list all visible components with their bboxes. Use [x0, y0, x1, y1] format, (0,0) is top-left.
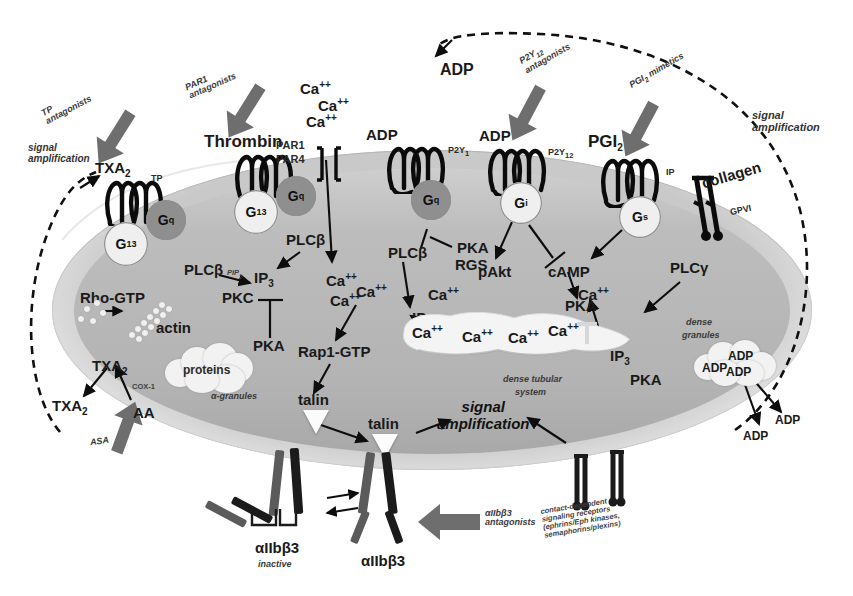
serca-pump-icon: [573, 318, 603, 352]
calcium-channel: [316, 146, 346, 190]
label-adp-top: ADP: [440, 62, 474, 79]
label-plcb-par: PLCβ: [286, 232, 325, 248]
gs-sub: s: [643, 212, 648, 222]
arrow-plcb-p2y1-to-ip3: [403, 262, 410, 307]
label-plcb-tp: PLCβ: [184, 262, 223, 278]
arrow-rap1-talin: [314, 364, 330, 393]
label-signal-amplification-right: signal amplification: [752, 110, 820, 133]
arrow-ca-rap1: [336, 305, 356, 340]
label-pakt: pAkt: [478, 264, 511, 280]
label-adp-released-1: ADP: [743, 430, 768, 443]
label-adp-p2y1: ADP: [366, 127, 398, 143]
label-txa2-released: TXA2: [52, 398, 88, 418]
label-ca-p2y1: Ca++: [428, 286, 459, 304]
g13-par-label: G: [246, 204, 257, 220]
g13-par-sub: 13: [256, 207, 266, 217]
label-plcb-p2y1: PLCβ: [388, 245, 427, 261]
arrow-plcb-to-ip3: [278, 252, 300, 268]
label-ca-dts-3: Ca++: [508, 329, 539, 347]
label-rap1-gtp: Rap1-GTP: [298, 344, 371, 360]
gq-tp-label: G: [158, 212, 169, 228]
label-txa2-intracellular: TXA2: [92, 358, 128, 378]
label-receptor-p2y12: P2Y12: [548, 148, 573, 160]
arrow-integrin-equilibrium-right: [327, 493, 358, 498]
g-protein-g13-par: G13: [234, 190, 278, 234]
arrow-gs-camp: [592, 230, 622, 258]
label-receptor-p2y1: P2Y1: [448, 146, 469, 158]
gs-label: G: [632, 209, 643, 225]
label-pka-dts: PKA: [630, 372, 662, 388]
label-alpha-granules: α-granules: [211, 392, 257, 401]
label-txa2-extracellular: TXA2: [95, 160, 131, 180]
arrow-gi-pakt: [496, 222, 512, 258]
label-ca-dts-2: Ca++: [462, 328, 493, 346]
gq-p2y1-label: G: [423, 192, 434, 208]
label-dts-line2: system: [515, 388, 546, 397]
label-ca-extracellular-1: Ca++: [300, 80, 331, 98]
label-plcg: PLCγ: [670, 260, 708, 276]
label-adp-p2y12: ADP: [479, 128, 511, 144]
label-ip3-left: IP3: [254, 270, 274, 290]
label-receptor-tp: TP: [151, 174, 163, 183]
g-protein-gi-p2y12: Gi: [500, 182, 542, 224]
label-proteins: proteins: [183, 364, 230, 377]
g-protein-gq-p2y1: Gq: [411, 180, 451, 220]
arrow-plcg-ip3: [645, 282, 680, 312]
label-ca-dts-1: Ca++: [412, 324, 443, 342]
label-aiibb3-active: αIIbβ3: [361, 553, 405, 569]
gi-sub: i: [525, 198, 528, 208]
gi-label: G: [514, 195, 525, 211]
g-protein-gq-par: Gq: [276, 176, 316, 216]
label-dts-line1: dense tubular: [503, 375, 562, 384]
label-rho-gtp: Rho-GTP: [80, 290, 145, 306]
label-adp-granule-1: ADP: [702, 362, 727, 375]
label-adp-granule-3: ADP: [726, 366, 751, 379]
label-adp-granule-2: ADP: [728, 350, 753, 363]
g13-tp-sub: 13: [126, 239, 136, 249]
label-receptor-ip: IP: [666, 168, 675, 177]
label-ca-cyto-3: Ca++: [356, 283, 387, 301]
gq-par-sub: q: [299, 191, 305, 201]
label-ca-cyto-1: Ca++: [326, 272, 357, 290]
label-thrombin: Thrombin: [204, 133, 282, 151]
g-protein-gs-ip: Gs: [619, 196, 661, 238]
label-pka-rgs-pka: PKA: [457, 240, 489, 256]
label-talin-cytoplasm: talin: [298, 392, 329, 408]
drug-arrow-aiibb3-antagonists: [416, 500, 482, 548]
g-protein-gq-tp: Gq: [146, 200, 186, 240]
label-talin-membrane: talin: [368, 416, 399, 432]
label-actin: actin: [156, 320, 191, 336]
arrow-integrin-equilibrium-left: [327, 508, 358, 513]
label-aiibb3-inactive: αIIbβ3: [255, 540, 299, 556]
label-ca-dts-release: Ca++: [578, 286, 609, 304]
inhibit-pka-rgs-stem: [430, 237, 452, 247]
label-ca-extracellular-3: Ca++: [306, 113, 337, 131]
label-aiibb3-antagonists: αIIbβ3 antagonists: [485, 509, 536, 528]
label-pip2: PIP2: [227, 262, 242, 280]
figure-canvas: G13 Gq G13 Gq Gq Gi Gs: [0, 0, 853, 596]
label-receptor-par4: PAR4: [276, 154, 305, 166]
gq-p2y1-sub: q: [434, 195, 440, 205]
g13-tp-label: G: [116, 236, 127, 252]
arrow-contact-signalamp: [528, 418, 566, 443]
talin-triangle-cytoplasm: [303, 410, 329, 434]
label-adp-released-2: ADP: [775, 414, 800, 427]
inhibit-gi-camp-stem: [529, 225, 553, 258]
label-signal-amplification-left: signal amplification: [28, 143, 90, 164]
label-pgi2: PGI2: [588, 133, 623, 154]
label-camp: cAMP: [548, 264, 590, 280]
g-protein-g13-tp: G13: [104, 222, 148, 266]
label-aiibb3-inactive-state: inactive: [258, 560, 292, 569]
label-pkc: PKC: [222, 290, 254, 306]
label-dense-granules-l1: dense: [686, 318, 712, 327]
label-signal-amplification-center: signal amplification: [437, 398, 530, 433]
label-cox1: COX-1: [132, 383, 155, 391]
gq-par-label: G: [288, 188, 299, 204]
gq-tp-sub: q: [169, 215, 175, 225]
label-aa: AA: [133, 405, 155, 421]
label-receptor-par1: PAR1: [276, 140, 305, 152]
